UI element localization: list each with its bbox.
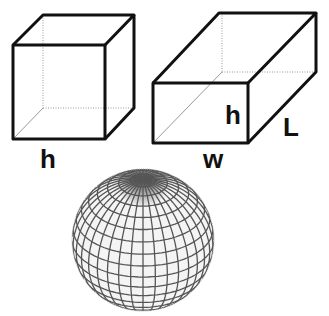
cube-height-label: h [40,146,56,172]
box-height-label: h [225,102,241,128]
sphere-figure [72,169,214,311]
cube-figure [13,15,134,139]
box-width-label: w [203,146,223,172]
box-length-label: L [283,114,299,140]
